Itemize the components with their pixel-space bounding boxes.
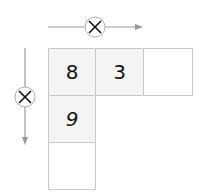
grid-cell-r1c1: 8 <box>48 48 96 96</box>
grid-cell-r3c1 <box>48 142 96 190</box>
horizontal-multiply-arrow <box>48 17 143 37</box>
arrows-layer <box>0 0 207 193</box>
grid-cell-r1c2: 3 <box>95 48 144 96</box>
vertical-multiply-arrow <box>15 48 35 145</box>
grid-cell-r1c3 <box>143 48 193 96</box>
grid-cell-r2c1: 9 <box>48 95 96 143</box>
